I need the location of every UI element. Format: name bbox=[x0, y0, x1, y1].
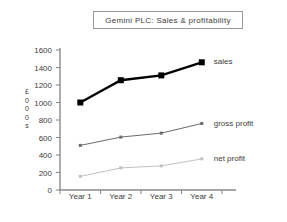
series-label-net-profit: net profit bbox=[214, 154, 245, 163]
series-sales bbox=[77, 59, 205, 105]
y-axis-tick-label: 0 bbox=[24, 186, 52, 195]
y-axis-tick-label: 200 bbox=[24, 168, 52, 177]
y-axis-tick-label: 1000 bbox=[24, 98, 52, 107]
data-point-marker bbox=[200, 122, 203, 125]
x-axis-tick-label: Year 1 bbox=[58, 192, 102, 201]
data-point-marker bbox=[119, 166, 122, 169]
y-axis-tick-label: 1200 bbox=[24, 81, 52, 90]
data-point-marker bbox=[200, 157, 203, 160]
series-label-sales: sales bbox=[214, 57, 233, 66]
data-point-marker bbox=[79, 144, 82, 147]
x-axis-tick-label: Year 3 bbox=[139, 192, 183, 201]
data-point-marker bbox=[158, 72, 164, 78]
x-axis-tick-label: Year 4 bbox=[180, 192, 224, 201]
data-point-marker bbox=[160, 132, 163, 135]
series-line bbox=[80, 124, 202, 146]
series-net-profit bbox=[79, 157, 204, 178]
series-gross-profit bbox=[79, 122, 204, 147]
series-label-gross-profit: gross profit bbox=[214, 119, 254, 128]
series-line bbox=[80, 159, 202, 177]
series-line bbox=[80, 62, 202, 102]
y-axis-tick-label: 800 bbox=[24, 116, 52, 125]
data-point-marker bbox=[118, 77, 124, 83]
y-axis-tick-label: 400 bbox=[24, 151, 52, 160]
data-point-marker bbox=[79, 175, 82, 178]
data-point-marker bbox=[160, 164, 163, 167]
x-axis-tick-label: Year 2 bbox=[99, 192, 143, 201]
data-point-marker bbox=[119, 136, 122, 139]
y-axis-tick-label: 1400 bbox=[24, 63, 52, 72]
data-point-marker bbox=[77, 100, 83, 106]
y-axis-tick-label: 600 bbox=[24, 133, 52, 142]
y-axis-tick-label: 1600 bbox=[24, 46, 52, 55]
data-point-marker bbox=[199, 59, 205, 65]
chart-container: Gemini PLC: Sales & profitability £000s … bbox=[0, 0, 287, 222]
